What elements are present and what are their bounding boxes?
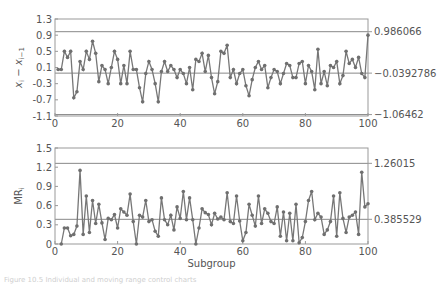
data-point bbox=[294, 76, 298, 80]
data-point bbox=[313, 88, 317, 92]
data-point bbox=[235, 82, 239, 86]
data-point bbox=[250, 78, 254, 82]
data-point bbox=[263, 207, 267, 211]
data-point bbox=[69, 234, 73, 238]
x-axis-label: Subgroup bbox=[187, 258, 235, 269]
data-point bbox=[260, 68, 264, 72]
data-point bbox=[338, 82, 342, 86]
data-point bbox=[307, 199, 311, 203]
data-point bbox=[319, 82, 323, 86]
data-point bbox=[322, 70, 326, 74]
data-point bbox=[150, 68, 154, 72]
data-point bbox=[241, 68, 245, 72]
data-point bbox=[191, 88, 195, 92]
data-point bbox=[282, 210, 286, 214]
control-limit-value: 0.385529 bbox=[374, 214, 422, 225]
y-axis-ticks: -1.1-0.7-0.30.10.50.91.3 bbox=[32, 14, 58, 122]
data-point bbox=[210, 76, 214, 80]
data-point bbox=[360, 171, 364, 175]
data-point bbox=[222, 218, 226, 222]
data-point bbox=[106, 82, 110, 86]
data-point bbox=[150, 218, 154, 222]
data-point bbox=[197, 60, 201, 64]
data-point bbox=[144, 199, 148, 203]
data-point bbox=[100, 64, 104, 68]
data-point bbox=[156, 100, 160, 104]
data-point bbox=[203, 211, 207, 215]
control-limit-labels: 0.986066−0.0392786−1.06462 bbox=[368, 26, 436, 120]
x-axis-ticks: 020406080100 bbox=[52, 241, 378, 257]
data-point bbox=[279, 82, 283, 86]
data-point bbox=[235, 194, 239, 198]
data-series bbox=[59, 169, 369, 246]
data-point bbox=[116, 226, 120, 230]
x-axis-ticks: 020406080100 bbox=[52, 113, 378, 129]
data-point bbox=[363, 205, 367, 209]
data-point bbox=[175, 205, 179, 209]
x-tick-label: 80 bbox=[299, 246, 312, 257]
data-point bbox=[366, 33, 370, 37]
y-tick-label: 0.6 bbox=[36, 200, 52, 211]
data-point bbox=[313, 218, 317, 222]
data-point bbox=[116, 58, 120, 62]
data-point bbox=[247, 94, 251, 98]
data-point bbox=[185, 218, 189, 222]
data-point bbox=[81, 68, 85, 72]
data-point bbox=[119, 207, 123, 211]
data-point bbox=[363, 76, 367, 80]
data-point bbox=[78, 60, 82, 64]
data-point bbox=[272, 222, 276, 226]
data-point bbox=[357, 56, 361, 60]
data-point bbox=[354, 66, 358, 70]
data-point bbox=[347, 215, 351, 219]
data-point bbox=[172, 228, 176, 232]
data-point bbox=[260, 222, 264, 226]
data-point bbox=[219, 215, 223, 219]
data-point bbox=[316, 211, 320, 215]
data-point bbox=[185, 82, 189, 86]
series-line bbox=[61, 170, 368, 244]
y-tick-label: -1.1 bbox=[32, 111, 52, 122]
data-point bbox=[244, 231, 248, 235]
y-axis-label: xi − xi−1 bbox=[13, 47, 26, 89]
data-point bbox=[160, 196, 164, 200]
data-point bbox=[304, 220, 308, 224]
x-tick-label: 20 bbox=[111, 246, 124, 257]
data-point bbox=[329, 64, 333, 68]
data-point bbox=[194, 58, 198, 62]
data-point bbox=[366, 202, 370, 206]
data-point bbox=[100, 221, 104, 225]
y-tick-label: 1.2 bbox=[36, 162, 52, 173]
data-point bbox=[329, 220, 333, 224]
data-point bbox=[326, 84, 330, 88]
data-point bbox=[304, 82, 308, 86]
data-point bbox=[341, 217, 345, 221]
data-point bbox=[225, 43, 229, 47]
y-tick-label: -0.7 bbox=[32, 94, 52, 105]
y-tick-label: 0.5 bbox=[36, 46, 52, 57]
data-point bbox=[344, 50, 348, 54]
data-point bbox=[310, 190, 314, 194]
data-point bbox=[360, 72, 364, 76]
data-point bbox=[291, 239, 295, 243]
data-point bbox=[335, 60, 339, 64]
data-point bbox=[250, 213, 254, 217]
data-point bbox=[56, 68, 60, 72]
data-point bbox=[357, 233, 361, 237]
data-point bbox=[228, 76, 232, 80]
data-point bbox=[207, 54, 211, 58]
y-tick-label: 0.1 bbox=[36, 62, 52, 73]
data-point bbox=[275, 205, 279, 209]
data-point bbox=[110, 218, 114, 222]
data-point bbox=[338, 191, 342, 195]
data-point bbox=[59, 242, 63, 246]
data-point bbox=[272, 68, 276, 72]
data-point bbox=[335, 235, 339, 239]
data-point bbox=[275, 70, 279, 74]
data-point bbox=[135, 242, 139, 246]
data-point bbox=[300, 236, 304, 240]
data-point bbox=[203, 70, 207, 74]
data-point bbox=[244, 84, 248, 88]
data-point bbox=[138, 213, 142, 217]
